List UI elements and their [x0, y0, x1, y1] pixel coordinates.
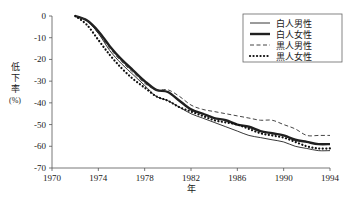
x-tick-label: 1978 — [136, 173, 155, 183]
legend-label-4: 黒人女性 — [276, 51, 312, 62]
legend-label-1: 白人男性 — [276, 18, 312, 29]
x-axis-title: 年 — [187, 183, 196, 194]
y-axis-ticks: 0-10-20-30-40-50-60-70 — [34, 11, 52, 173]
y-tick-label: -70 — [34, 163, 46, 173]
x-axis-ticks: 1970197419781982198619901994 — [43, 168, 340, 183]
y-tick-label: -20 — [34, 54, 46, 64]
y-tick-label: -50 — [34, 120, 46, 130]
legend-label-2: 白人女性 — [276, 29, 312, 40]
y-tick-label: -60 — [34, 141, 46, 151]
line-chart-plot: 0-10-20-30-40-50-60-70 19701974197819821… — [0, 0, 347, 197]
x-tick-label: 1970 — [43, 173, 62, 183]
x-tick-label: 1974 — [89, 173, 108, 183]
y-tick-label: -10 — [34, 33, 46, 43]
x-tick-label: 1990 — [275, 173, 294, 183]
chart-legend: 白人男性白人女性黒人男性黒人女性 — [243, 14, 342, 62]
chart-container: 低 下 率 (%) 0-10-20-30-40-50-60-70 1970197… — [0, 0, 347, 197]
y-tick-label: 0 — [42, 11, 47, 21]
x-tick-label: 1994 — [321, 173, 340, 183]
y-tick-label: -40 — [34, 98, 46, 108]
x-tick-label: 1986 — [228, 173, 247, 183]
x-tick-label: 1982 — [182, 173, 200, 183]
legend-label-3: 黒人男性 — [276, 40, 312, 51]
y-tick-label: -30 — [34, 76, 46, 86]
